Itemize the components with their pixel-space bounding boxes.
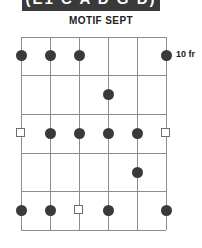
filled-dot-marker-s3-f1 [74,50,85,61]
open-square-marker-s3-f5 [74,205,83,214]
fret-line-4 [21,191,166,192]
fret-line-0 [21,37,166,38]
filled-dot-marker-s4-f2 [103,89,114,100]
filled-dot-marker-s2-f3 [45,128,56,139]
filled-dot-marker-s5-f3 [132,128,143,139]
filled-dot-marker-s6-f1 [161,50,172,61]
filled-dot-marker-s2-f1 [45,50,56,61]
chord-diagram [0,0,202,248]
filled-dot-marker-s6-f5 [161,205,172,216]
fret-line-2 [21,114,166,115]
filled-dot-marker-s2-f5 [45,205,56,216]
open-square-marker-s1-f3 [16,128,25,137]
fret-position-label: 10 fr [176,49,195,59]
filled-dot-marker-s5-f4 [132,167,143,178]
fret-line-5 [21,230,166,231]
fret-line-1 [21,75,166,76]
filled-dot-marker-s1-f1 [16,50,27,61]
filled-dot-marker-s4-f3 [103,128,114,139]
filled-dot-marker-s4-f5 [103,205,114,216]
filled-dot-marker-s1-f5 [16,205,27,216]
filled-dot-marker-s3-f3 [74,128,85,139]
fret-line-3 [21,153,166,154]
open-square-marker-s6-f3 [161,128,170,137]
